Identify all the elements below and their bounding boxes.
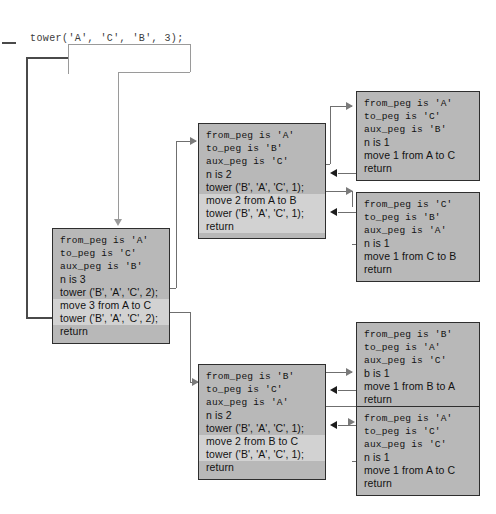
frame-line: from_peg is 'A' [60, 234, 163, 247]
connector-outer-top [26, 57, 68, 59]
frame-line: return [364, 393, 473, 406]
connector-root-to-midbottom-out [168, 312, 190, 313]
frame-line: to_peg is 'C' [60, 247, 163, 260]
frame-line: move 1 from A to C [364, 464, 473, 477]
frame-line: from_peg is 'A' [364, 97, 473, 110]
frame-line: to_peg is 'B' [206, 142, 319, 155]
arrow-return-leaf3 [330, 386, 337, 394]
arrow-call-midtop [190, 137, 197, 145]
connector-call-stub [2, 42, 16, 44]
frame-line: move 1 from B to A [364, 380, 473, 393]
connector-outer-bottom [26, 317, 52, 319]
frame-n1-btoa: from_peg is 'B'to_peg is 'A'aux_peg is '… [356, 322, 480, 412]
frame-line: n is 1 [364, 451, 473, 464]
connector-outer-left [26, 57, 28, 318]
frame-line: tower ('B', 'A', 'C', 2); [53, 312, 169, 325]
frame-line: n is 3 [60, 273, 163, 286]
frame-line: to_peg is 'C' [364, 110, 473, 123]
connector-leaf1-return [338, 173, 356, 174]
frame-line: from_peg is 'A' [206, 129, 319, 142]
frame-line: return [364, 263, 473, 276]
frame-n1-ctob: from_peg is 'C'to_peg is 'B'aux_peg is '… [356, 192, 480, 282]
frame-line: to_peg is 'C' [206, 383, 319, 396]
arrow-call-leaf3 [346, 368, 353, 376]
arrow-call-leaf1 [346, 102, 353, 110]
frame-line: from_peg is 'C' [364, 198, 473, 211]
frame-line: move 1 from C to B [364, 250, 473, 263]
frame-line: return [199, 220, 325, 233]
frame-line: b is 1 [364, 367, 473, 380]
arrow-return-leaf1 [330, 169, 337, 177]
frame-line: n is 2 [206, 168, 319, 181]
frame-line: return [364, 477, 473, 490]
connector-midbottom-to-leaf4 [324, 406, 356, 407]
frame-n2-atob: from_peg is 'A'to_peg is 'B'aux_peg is '… [198, 123, 326, 239]
connector-call-drop-b [190, 44, 191, 72]
frame-n1-atoc-top: from_peg is 'A'to_peg is 'C'aux_peg is '… [356, 91, 480, 181]
arrow-return-leaf2 [330, 208, 337, 216]
frame-line: to_peg is 'B' [364, 211, 473, 224]
connector-call-into-root [118, 72, 119, 220]
frame-n1-atoc-bottom: from_peg is 'A'to_peg is 'C'aux_peg is '… [356, 406, 480, 496]
frame-line: return [206, 461, 319, 474]
frame-line: aux_peg is 'B' [364, 123, 473, 136]
frame-line: tower ('B', 'A', 'C', 1); [206, 422, 319, 435]
arrow-into-root [114, 219, 122, 226]
connector-call-drop-a [68, 44, 69, 74]
frame-line: from_peg is 'A' [364, 412, 473, 425]
frame-line: aux_peg is 'A' [206, 396, 319, 409]
connector-call-top [68, 44, 190, 45]
connector-call-mid [118, 72, 190, 73]
frame-line: tower ('B', 'A', 'C', 1); [199, 448, 325, 461]
frame-line: n is 2 [206, 409, 319, 422]
frame-n3: from_peg is 'A'to_peg is 'C'aux_peg is '… [52, 228, 170, 344]
arrow-return-leaf4 [330, 421, 337, 429]
frame-line: tower ('B', 'A', 'C', 1); [199, 207, 325, 220]
frame-line: aux_peg is 'C' [364, 354, 473, 367]
frame-line: tower ('B', 'A', 'C', 2); [60, 286, 163, 299]
top-call-label: tower('A', 'C', 'B', 3); [30, 33, 184, 44]
connector-root-to-midtop-v [176, 141, 177, 288]
frame-line: aux_peg is 'B' [60, 260, 163, 273]
recursion-trace-diagram: tower('A', 'C', 'B', 3); [0, 0, 496, 514]
frame-line: aux_peg is 'C' [364, 438, 473, 451]
frame-line: to_peg is 'C' [364, 425, 473, 438]
frame-line: move 1 from A to C [364, 149, 473, 162]
frame-line: to_peg is 'A' [364, 341, 473, 354]
connector-midtop-to-leaf1-v [330, 106, 331, 164]
arrow-call-leaf2 [346, 187, 353, 195]
frame-line: move 2 from A to B [199, 194, 325, 207]
frame-line: aux_peg is 'A' [364, 224, 473, 237]
frame-line: tower ('B', 'A', 'C', 1); [206, 181, 319, 194]
frame-line: n is 1 [364, 237, 473, 250]
frame-line: n is 1 [364, 136, 473, 149]
frame-line: move 2 from B to C [199, 435, 325, 448]
frame-line: from_peg is 'B' [206, 370, 319, 383]
frame-line: aux_peg is 'C' [206, 155, 319, 168]
frame-line: return [364, 162, 473, 175]
frame-n2-btoc: from_peg is 'B'to_peg is 'C'aux_peg is '… [198, 364, 326, 480]
frame-line: from_peg is 'B' [364, 328, 473, 341]
frame-line: move 3 from A to C [53, 299, 169, 312]
frame-line: return [60, 325, 163, 338]
connector-root-to-midbottom-v [190, 312, 191, 382]
